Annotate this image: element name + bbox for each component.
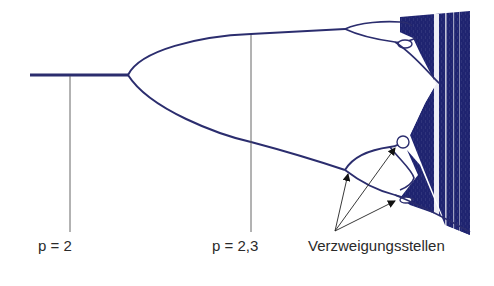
period-4-lower-right [390,147,414,190]
periodic-window-stripe [434,14,439,233]
period-8-lower-loop-top [397,136,409,148]
period-8-upper-loop [398,40,412,48]
label-p23: p = 2,3 [212,238,258,253]
arrow-to-lower-loop [335,201,395,231]
periodic-window-stripe-thin [445,13,447,235]
periodic-window-stripe-thin [453,12,454,235]
period-2-upper-branch [128,29,345,75]
period-2-lower-branch [128,75,345,170]
label-p2: p = 2 [38,238,72,253]
branching-arrows [335,148,395,231]
periodic-window-stripe-thin [459,12,460,235]
arrow-to-upper-loop [335,148,395,231]
label-branching-points: Verzweigungsstellen [308,238,445,253]
